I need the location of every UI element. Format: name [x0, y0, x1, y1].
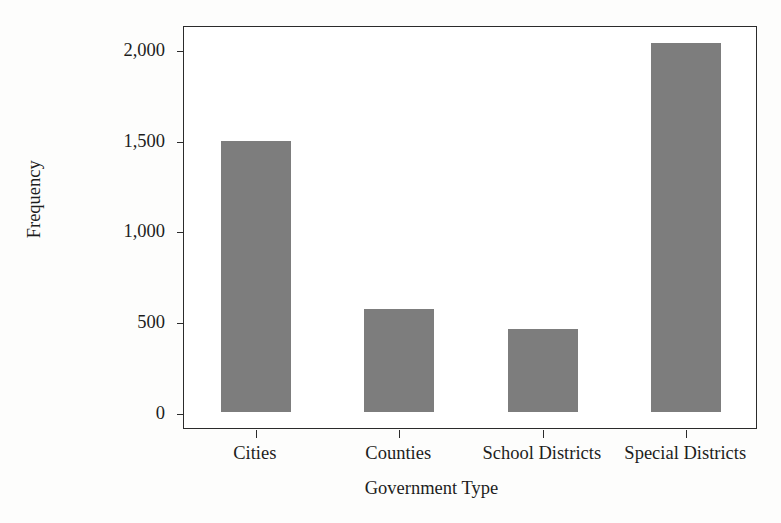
chart-page: Frequency 05001,0001,5002,000 CitiesCoun…: [0, 0, 781, 523]
y-tick-label: 0: [45, 404, 165, 423]
x-axis-title: Government Type: [0, 479, 781, 498]
bar-cities: [221, 141, 291, 412]
x-tick-mark: [256, 430, 257, 438]
bar-special-districts: [651, 43, 721, 412]
y-tick-label: 500: [45, 313, 165, 332]
x-tick-label: School Districts: [482, 444, 601, 463]
y-axis-title: Frequency: [25, 109, 44, 289]
y-tick-label: 2,000: [45, 41, 165, 60]
y-tick-mark: [177, 142, 184, 143]
y-tick-mark: [177, 232, 184, 233]
x-tick-mark: [686, 430, 687, 438]
x-tick-label: Cities: [233, 444, 276, 463]
plot-area: [183, 26, 757, 429]
x-axis-title-text: Government Type: [365, 479, 498, 498]
x-tick-mark: [399, 430, 400, 438]
bar-school-districts: [508, 329, 578, 412]
bar-counties: [364, 309, 434, 412]
y-tick-label: 1,000: [45, 222, 165, 241]
y-tick-mark: [177, 323, 184, 324]
y-tick-label: 1,500: [45, 132, 165, 151]
y-tick-mark: [177, 51, 184, 52]
x-tick-label: Special Districts: [624, 444, 746, 463]
y-tick-mark: [177, 414, 184, 415]
x-tick-label: Counties: [365, 444, 431, 463]
x-tick-mark: [543, 430, 544, 438]
